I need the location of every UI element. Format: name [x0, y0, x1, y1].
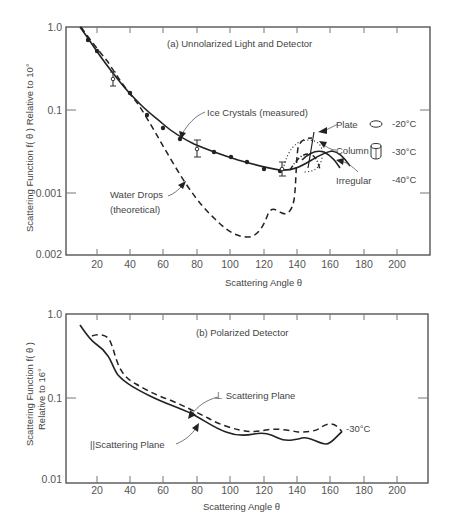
svg-text:80: 80 — [191, 258, 203, 270]
arrow-icon — [188, 410, 196, 419]
y-axis-label-b-line2: Relative to 16° — [36, 368, 47, 430]
plate-crystal-icon — [370, 121, 382, 127]
svg-text:60: 60 — [157, 258, 169, 270]
plot-frame-a — [66, 27, 430, 255]
svg-text:80: 80 — [191, 484, 203, 496]
y-axis-label-b-line1: Scattering Function f( θ ) — [24, 342, 35, 446]
svg-text:180: 180 — [355, 484, 373, 496]
x-ticks-bottom-b — [97, 476, 397, 483]
error-bars — [110, 72, 286, 176]
chart-title-b: (b) Polarized Detector — [196, 327, 288, 338]
chart-a: 1.0 0.1 0.001 0.002 20 40 60 80 100 120 … — [24, 21, 430, 288]
svg-text:160: 160 — [321, 484, 339, 496]
annotation-perpendicular: ⊥ Scattering Plane — [214, 390, 295, 401]
annotation-plate: Plate — [336, 119, 358, 130]
y-ticks-a — [66, 110, 430, 193]
ice-leader — [182, 112, 205, 134]
svg-text:160: 160 — [321, 258, 339, 270]
annotation-column: Column — [336, 145, 369, 156]
y-tick-label: 1.0 — [47, 21, 62, 33]
series-parallel — [92, 335, 342, 432]
svg-text:120: 120 — [255, 484, 273, 496]
temp-label-40: -40°C — [392, 174, 417, 185]
annotation-irregular: Irregular — [336, 175, 371, 186]
series-column — [284, 140, 322, 172]
svg-text:200: 200 — [388, 258, 406, 270]
figure: 1.0 0.1 0.001 0.002 20 40 60 80 100 120 … — [0, 0, 454, 531]
svg-text:40: 40 — [124, 258, 136, 270]
svg-text:100: 100 — [221, 258, 239, 270]
annotation-theoretical: (theoretical) — [110, 204, 160, 215]
y-tick-label: 0.1 — [47, 104, 62, 116]
arrow-icon — [192, 423, 199, 432]
svg-text:120: 120 — [255, 258, 273, 270]
column-crystal-icon — [371, 144, 381, 160]
water-leader — [168, 186, 182, 196]
x-ticks-top-a — [97, 27, 397, 33]
svg-text:40: 40 — [124, 484, 136, 496]
chart-b: 1.0 0.1 0.01 20 40 60 80 100 120 140 160… — [24, 308, 428, 512]
y-axis-label-a: Scattering Function f( θ ) Relative to 1… — [24, 63, 35, 232]
svg-text:140: 140 — [288, 484, 306, 496]
svg-text:60: 60 — [157, 484, 169, 496]
x-axis-label-a: Scattering Angle θ — [225, 277, 302, 288]
x-ticks-bottom-a — [97, 249, 397, 255]
svg-text:100: 100 — [221, 484, 239, 496]
chart-title-a: (a) Unnolarized Light and Detector — [167, 38, 312, 49]
series-perpendicular — [80, 325, 342, 444]
x-ticks-top-b — [97, 314, 397, 320]
svg-text:200: 200 — [388, 484, 406, 496]
ice-markers — [86, 38, 282, 173]
svg-text:140: 140 — [288, 258, 306, 270]
par-leader — [176, 428, 196, 444]
annotation-water-drops: Water Drops — [110, 189, 163, 200]
x-tick-labels-b: 20 40 60 80 100 120 140 160 180 200 — [91, 484, 406, 496]
y-tick-label: 0.002 — [36, 248, 62, 260]
x-axis-label-b: Scattering Angle θ — [203, 501, 280, 512]
annotation-parallel: ||Scattering Plane — [90, 439, 165, 450]
temp-label-20: -20°C — [392, 118, 417, 129]
temp-label-30: -30°C — [392, 146, 417, 157]
temp-label-30-b: -30°C — [346, 423, 371, 434]
svg-text:20: 20 — [91, 258, 103, 270]
y-tick-label: 1.0 — [47, 308, 62, 320]
arrow-icon — [318, 127, 327, 134]
y-tick-label: 0.1 — [47, 392, 62, 404]
arrow-icon — [178, 181, 186, 189]
y-tick-label: 0.01 — [42, 473, 63, 485]
svg-text:20: 20 — [91, 484, 103, 496]
annotation-ice-crystals: Ice Crystals (measured) — [207, 107, 308, 118]
svg-text:180: 180 — [355, 258, 373, 270]
y-tick-label: 0.001 — [36, 187, 62, 199]
x-tick-labels-a: 20 40 60 80 100 120 140 160 180 200 — [91, 258, 406, 270]
